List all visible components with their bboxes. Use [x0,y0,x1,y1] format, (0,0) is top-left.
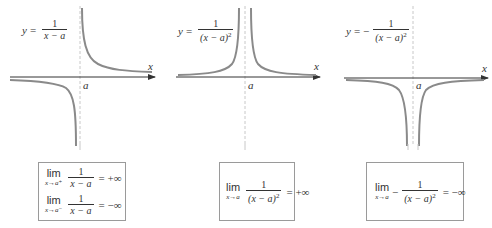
denominator: x − a [68,204,93,216]
limit-result: = +∞ [99,172,122,184]
exponent: 2 [403,31,407,39]
exponent: 2 [432,192,436,200]
lim-operator: limx→a [375,182,389,201]
limit-left: limx→a⁻ 1x − a = −∞ [45,193,122,216]
denominator: (x − a)2 [402,190,437,204]
equation-lhs: y [346,25,351,37]
denominator-text: (x − a) [404,193,432,204]
numerator: 1 [76,193,85,204]
lim-word: lim [47,168,61,179]
fraction: 1x − a [68,166,93,189]
lim-operator: limx→a⁻ [45,195,62,214]
lim-subscript: x→a [226,193,240,201]
lim-word: lim [226,182,240,193]
limit-result: = −∞ [443,186,466,198]
lim-subscript: x→a⁺ [45,179,62,187]
curve-right [251,8,316,75]
lim-subscript: x→a⁻ [45,206,62,214]
x-axis-label: x [482,62,487,74]
asymptote-label: a [416,79,422,91]
curve-left [346,80,407,146]
numerator: 1 [259,179,268,190]
lim-operator: limx→a [226,182,240,201]
exponent: 2 [276,192,280,200]
limit-result: = −∞ [99,199,122,211]
denominator-text: (x − a) [200,32,228,43]
denominator: x − a [42,29,67,41]
limits-box-negative-reciprocal-square: limx→a − 1(x − a)2 = −∞ [366,162,464,221]
equals-sign: = [186,25,192,37]
fraction: 1 (x − a)2 [373,18,408,43]
denominator: (x − a)2 [198,29,233,43]
lim-word: lim [375,182,389,193]
numerator: 1 [415,179,424,190]
asymptote-label: a [83,79,89,91]
fraction: 1(x − a)2 [246,179,281,204]
denominator: (x − a)2 [373,29,408,43]
limits-box-reciprocal: limx→a⁺ 1x − a = +∞ limx→a⁻ 1x − a = −∞ [38,162,126,221]
curve-left [10,80,76,146]
exponent: 2 [228,31,232,39]
equals-sign: = [30,24,36,36]
fraction: 1 x − a [42,18,67,41]
equation-lhs: y [178,25,183,37]
limit-result: = +∞ [286,186,309,198]
asymptote-label: a [248,79,254,91]
x-axis-label: x [314,60,319,72]
minus-sign: − [392,186,398,198]
equation-reciprocal-square: y = 1 (x − a)2 [178,18,236,43]
lim-operator: limx→a⁺ [45,168,62,187]
limit-right: limx→a⁺ 1x − a = +∞ [45,166,122,189]
denominator: (x − a)2 [246,190,281,204]
numerator: 1 [76,166,85,177]
equation-negative-reciprocal-square: y = − 1 (x − a)2 [346,18,412,43]
equation-reciprocal: y = 1 x − a [22,18,70,41]
fraction: 1(x − a)2 [402,179,437,204]
fraction: 1x − a [68,193,93,216]
denominator-text: x − a [44,30,65,41]
numerator: 1 [50,18,59,29]
numerator: 1 [211,18,220,29]
equals-sign: = [354,25,360,37]
lim-subscript: x→a [375,193,389,201]
x-axis-label: x [148,60,153,72]
denominator-text: (x − a) [375,32,403,43]
denominator-text: x − a [70,178,91,189]
limits-box-reciprocal-square: limx→a 1(x − a)2 = +∞ [219,162,295,221]
curve-right [419,80,484,146]
denominator-text: x − a [70,205,91,216]
equation-lhs: y [22,24,27,36]
denominator-text: (x − a) [248,193,276,204]
numerator: 1 [387,18,396,29]
curve-right [82,8,152,72]
lim-word: lim [47,195,61,206]
denominator: x − a [68,177,93,189]
limit-two-sided: limx→a 1(x − a)2 = +∞ [226,179,309,204]
limit-two-sided: limx→a − 1(x − a)2 = −∞ [375,179,466,204]
fraction: 1 (x − a)2 [198,18,233,43]
minus-sign: − [363,25,369,37]
